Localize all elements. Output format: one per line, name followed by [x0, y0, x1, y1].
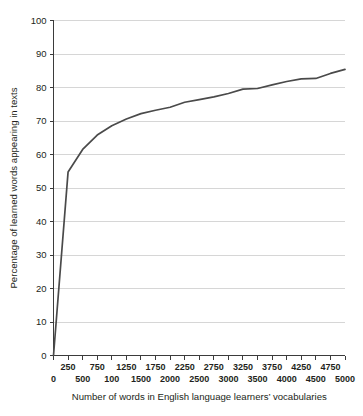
x-tick-marks-group: [54, 356, 346, 361]
x-tick-label-lower-3500: 3500: [248, 374, 268, 384]
page-artifact-text: [236, 1, 356, 10]
gridlines-group: [54, 21, 346, 323]
x-tick-label-3750: 3750: [262, 362, 282, 372]
y-tick-label-100: 100: [31, 15, 47, 26]
x-tick-label-lower-2500: 2500: [189, 374, 209, 384]
x-tick-label-lower-3000: 3000: [218, 374, 238, 384]
y-tick-label-70: 70: [36, 115, 47, 126]
x-tick-label-2750: 2750: [204, 362, 224, 372]
chart-figure: 0102030405060708090100 25075012501750225…: [0, 0, 363, 416]
x-tick-label-lower-4000: 4000: [277, 374, 297, 384]
data-series-line: [54, 69, 346, 355]
x-tick-label-lower-1500: 1500: [131, 374, 151, 384]
x-tick-label-lower-4500: 4500: [306, 374, 326, 384]
y-axis-title: Percentage of learned words appearing in…: [8, 87, 19, 288]
y-tick-label-80: 80: [36, 82, 47, 93]
y-tick-labels-group: 0102030405060708090100: [31, 15, 47, 361]
x-tick-label-3250: 3250: [233, 362, 253, 372]
x-tick-label-lower-5000: 5000: [335, 374, 355, 384]
x-tick-label-lower-2000: 2000: [160, 374, 180, 384]
y-tick-label-90: 90: [36, 48, 47, 59]
y-tick-label-20: 20: [36, 283, 47, 294]
x-tick-label-250: 250: [61, 362, 76, 372]
x-tick-label-750: 750: [90, 362, 105, 372]
y-tick-label-10: 10: [36, 316, 47, 327]
line-chart: 0102030405060708090100 25075012501750225…: [0, 0, 363, 416]
x-tick-labels-upper-group: 25075012501750225027503250375042504750: [61, 362, 341, 372]
y-tick-label-40: 40: [36, 216, 47, 227]
x-tick-label-2250: 2250: [175, 362, 195, 372]
y-tick-label-0: 0: [41, 350, 46, 361]
x-tick-label-lower-0: 0: [51, 374, 56, 384]
x-tick-labels-lower-group: 050010015002000250030003500400045005000: [51, 374, 355, 384]
x-axis-title: Number of words in English language lear…: [72, 391, 327, 402]
x-tick-label-lower-500: 500: [75, 374, 90, 384]
y-tick-label-50: 50: [36, 182, 47, 193]
x-tick-label-1250: 1250: [116, 362, 136, 372]
x-tick-label-lower-1000: 100: [104, 374, 119, 384]
x-tick-label-4750: 4750: [320, 362, 340, 372]
x-tick-label-4250: 4250: [291, 362, 311, 372]
y-tick-marks-group: [50, 21, 54, 356]
x-tick-label-1750: 1750: [146, 362, 166, 372]
y-tick-label-60: 60: [36, 149, 47, 160]
y-tick-label-30: 30: [36, 249, 47, 260]
